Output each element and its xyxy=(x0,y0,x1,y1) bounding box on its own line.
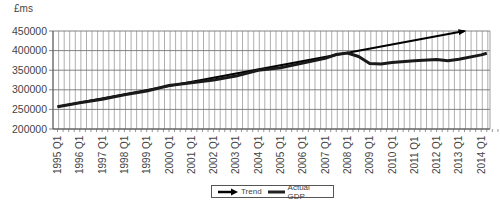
x-tick-label: 1998 Q1 xyxy=(119,135,130,174)
y-tick-label: 300000 xyxy=(12,83,47,95)
x-tick-label: 2013 Q1 xyxy=(453,135,464,174)
legend-label-actual-gdp: Actual GDP xyxy=(288,183,327,201)
y-tick-label: 200000 xyxy=(12,123,47,135)
legend-item-trend: Trend xyxy=(218,187,262,196)
x-tick-label: 2009 Q1 xyxy=(364,135,375,174)
legend: Trend Actual GDP xyxy=(211,185,334,198)
legend-label-trend: Trend xyxy=(241,187,262,196)
x-tick-label: 1999 Q1 xyxy=(141,135,152,174)
x-tick-label: 2010 Q1 xyxy=(387,135,398,174)
legend-item-actual-gdp: Actual GDP xyxy=(268,183,327,201)
x-tick-label: 2004 Q1 xyxy=(253,135,264,174)
x-tick-label: 1995 Q1 xyxy=(52,135,63,174)
y-tick-label: 250000 xyxy=(12,103,47,115)
y-tick-label: 400000 xyxy=(12,44,47,56)
x-tick-label: 2012 Q1 xyxy=(431,135,442,174)
actual-gdp-line xyxy=(58,53,487,107)
x-tick-label: 2002 Q1 xyxy=(208,135,219,174)
x-tick-label: 2005 Q1 xyxy=(275,135,286,174)
x-tick-label: 2007 Q1 xyxy=(320,135,331,174)
gdp-line-chart: 2000002500003000003500004000004500001995… xyxy=(0,0,500,205)
x-tick-label: 2003 Q1 xyxy=(230,135,241,174)
x-tick-label: 1997 Q1 xyxy=(97,135,108,174)
y-tick-label: 350000 xyxy=(12,64,47,76)
x-tick-label: 2006 Q1 xyxy=(297,135,308,174)
x-tick-label: 2001 Q1 xyxy=(186,135,197,174)
line-swatch-icon xyxy=(268,188,285,196)
x-tick-label: 2011 Q1 xyxy=(409,136,420,174)
x-tick-label: 1996 Q1 xyxy=(74,135,85,174)
arrow-icon xyxy=(218,188,238,196)
y-tick-label: 450000 xyxy=(12,25,47,37)
x-tick-label: 2014 Q1 xyxy=(476,135,487,174)
x-tick-label: 2000 Q1 xyxy=(164,135,175,174)
x-tick-label: 2008 Q1 xyxy=(342,135,353,174)
